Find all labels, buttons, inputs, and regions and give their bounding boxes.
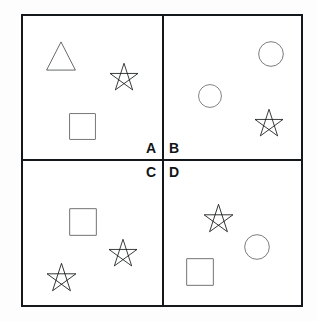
quadrant-label-c: C [146,165,156,179]
triangle-shape [45,40,77,72]
square-shape [68,112,97,141]
star-shape [108,62,140,94]
star-shape [45,262,78,295]
circle-shape [257,40,285,68]
star-shape [202,203,235,236]
figure-canvas: A B C D [0,0,317,321]
circle-shape [197,83,223,109]
quadrant-grid-frame: A B C D [21,14,303,307]
star-shape [107,238,139,270]
quadrant-c: C [23,161,162,305]
quadrant-label-b: B [169,141,179,155]
circle-shape [243,233,271,261]
quadrant-label-d: D [169,165,179,179]
quadrant-b: B [164,16,301,159]
quadrant-label-a: A [146,141,156,155]
square-shape [185,257,215,287]
square-shape [68,207,98,237]
quadrant-a: A [23,16,162,159]
star-shape [253,108,285,140]
quadrant-d: D [164,161,301,305]
